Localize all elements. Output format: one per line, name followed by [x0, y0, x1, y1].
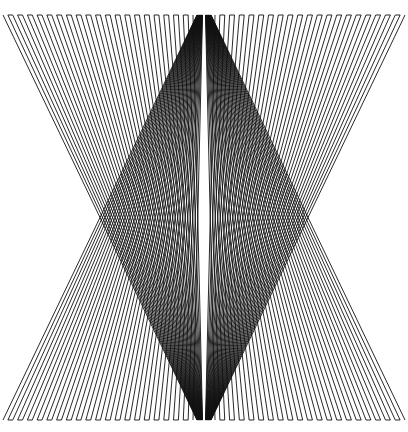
moire-line-art	[0, 0, 408, 432]
